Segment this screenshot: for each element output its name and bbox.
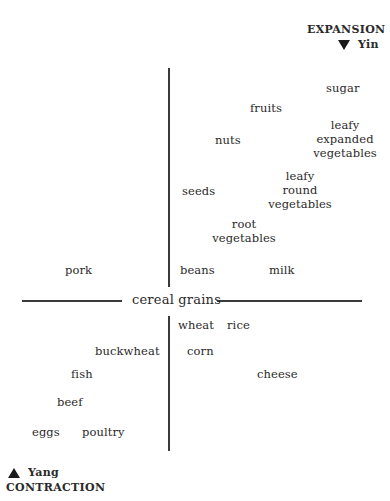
item-beef: beef bbox=[57, 395, 83, 409]
item-root-vegetables: root vegetables bbox=[204, 217, 284, 245]
item-nuts: nuts bbox=[215, 133, 241, 147]
item-beans: beans bbox=[180, 263, 215, 277]
yang-label: Yang bbox=[28, 466, 59, 479]
vertical-axis-upper bbox=[168, 68, 170, 287]
item-fish: fish bbox=[71, 367, 93, 381]
item-corn: corn bbox=[187, 344, 214, 358]
item-cheese: cheese bbox=[257, 367, 298, 381]
vertical-axis-lower bbox=[168, 316, 170, 451]
triangle-up-icon bbox=[8, 468, 20, 478]
horizontal-axis-left bbox=[22, 300, 122, 302]
yin-label: Yin bbox=[358, 38, 379, 51]
yin-yang-food-diagram: EXPANSION Yin cereal grains sugar fruits… bbox=[0, 0, 390, 501]
item-sugar: sugar bbox=[326, 81, 360, 95]
item-leafy-round-vegetables: leafy round vegetables bbox=[260, 169, 340, 211]
yang-label-group: Yang bbox=[8, 466, 59, 479]
item-poultry: poultry bbox=[82, 425, 125, 439]
item-eggs: eggs bbox=[32, 425, 60, 439]
horizontal-axis-right bbox=[217, 300, 362, 302]
item-milk: milk bbox=[269, 263, 295, 277]
contraction-label: CONTRACTION bbox=[6, 481, 105, 494]
item-rice: rice bbox=[227, 318, 250, 332]
item-seeds: seeds bbox=[182, 184, 215, 198]
item-wheat: wheat bbox=[178, 318, 214, 332]
item-pork: pork bbox=[65, 263, 92, 277]
item-fruits: fruits bbox=[250, 101, 282, 115]
triangle-down-icon bbox=[338, 40, 350, 50]
item-leafy-expanded-vegetables: leafy expanded vegetables bbox=[300, 118, 390, 160]
yin-label-group: Yin bbox=[338, 38, 379, 51]
expansion-label: EXPANSION bbox=[307, 23, 385, 36]
item-buckwheat: buckwheat bbox=[95, 344, 160, 358]
cereal-grains-label: cereal grains bbox=[132, 292, 221, 307]
